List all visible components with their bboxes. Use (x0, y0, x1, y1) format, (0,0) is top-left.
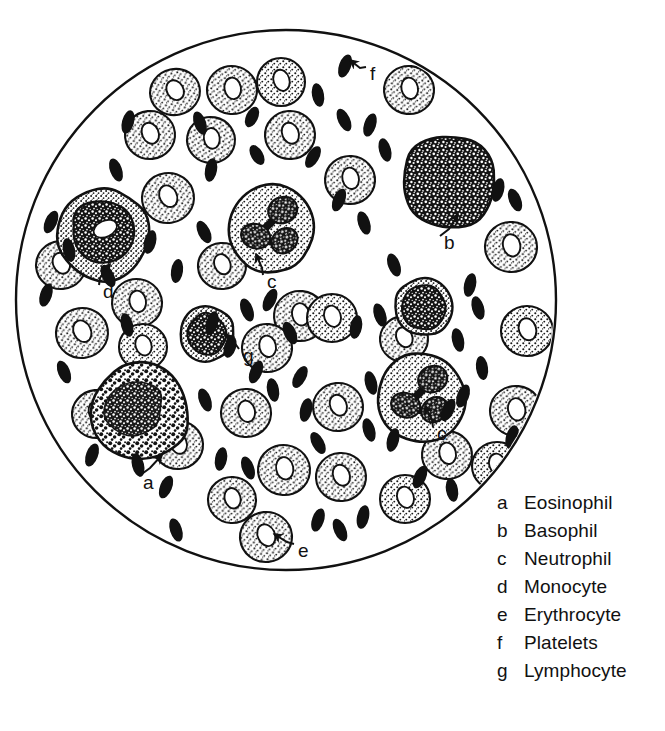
blood-smear-figure: abccdefg a Eosinophil b Basophil c Neutr… (0, 0, 665, 731)
callout-letter: c (267, 271, 277, 292)
callout-letter: e (298, 540, 309, 561)
neutrophil (229, 184, 314, 272)
legend-item: b Basophil (497, 517, 665, 545)
legend-label: Eosinophil (524, 489, 613, 517)
callout-letter: f (370, 63, 376, 84)
legend-item: g Lymphocyte (497, 657, 665, 685)
legend-label: Lymphocyte (524, 657, 627, 685)
legend-item: e Erythrocyte (497, 601, 665, 629)
legend-item: a Eosinophil (497, 489, 665, 517)
callout-letter: c (437, 423, 447, 444)
basophil (404, 137, 494, 227)
legend-label: Neutrophil (524, 545, 612, 573)
legend-key: e (497, 601, 524, 629)
erythrocyte (257, 58, 305, 106)
legend-label: Monocyte (524, 573, 607, 601)
legend-label: Erythrocyte (524, 601, 621, 629)
callout-letter: b (444, 232, 455, 253)
lymphocyte (395, 278, 452, 334)
legend-key: f (497, 629, 524, 657)
legend-key: c (497, 545, 524, 573)
legend-item: f Platelets (497, 629, 665, 657)
legend-label: Basophil (524, 517, 598, 545)
legend-key: d (497, 573, 524, 601)
neutrophil (378, 354, 466, 442)
callout-letter: g (243, 345, 254, 366)
legend-item: d Monocyte (497, 573, 665, 601)
callout-letter: d (103, 281, 114, 302)
legend-key: a (497, 489, 524, 517)
legend-key: g (497, 657, 524, 685)
callout-letter: a (143, 472, 154, 493)
legend-label: Platelets (524, 629, 598, 657)
erythrocyte (307, 294, 357, 342)
erythrocyte (501, 306, 553, 356)
legend: a Eosinophil b Basophil c Neutrophil d M… (497, 489, 665, 685)
legend-key: b (497, 517, 524, 545)
legend-item: c Neutrophil (497, 545, 665, 573)
